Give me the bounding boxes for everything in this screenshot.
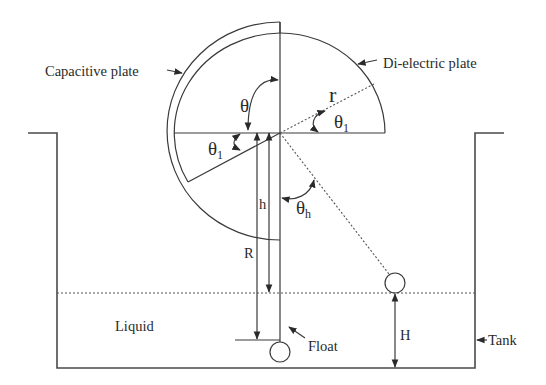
float-label: Float [308,338,338,354]
dielectric-plate-leader [358,60,377,64]
tank-wall [28,133,504,368]
capacitive-plate-leader [167,70,182,73]
level-sensor-diagram: Capacitive plate Di-electric plate Liqui… [0,0,546,385]
theta1-right-symbol: θ1 [334,111,349,135]
float-displaced-position [385,273,405,293]
liquid-label: Liquid [115,318,154,334]
float-vertical-position [270,342,290,362]
theta-angle-arc [248,80,278,130]
theta-symbol: θ [240,95,249,116]
capacitive-plate-inner-arc [174,33,280,182]
capacitive-plate-label: Capacitive plate [45,63,139,79]
H-symbol: H [400,327,411,343]
radius-r-dotted [280,84,374,133]
tank-label: Tank [488,332,518,348]
thetah-angle-arc [282,180,314,199]
theta1-right-angle-arc [313,111,325,132]
r-symbol: r [329,82,337,107]
h-symbol: h [259,196,267,212]
thetah-symbol: θh [296,197,311,221]
theta1-left-angle-arc [234,134,240,150]
float-leader [289,327,305,338]
tank [28,133,504,368]
theta1-left-symbol: θ1 [208,138,223,162]
dielectric-plate-label: Di-electric plate [383,55,477,71]
R-symbol: R [244,245,254,261]
